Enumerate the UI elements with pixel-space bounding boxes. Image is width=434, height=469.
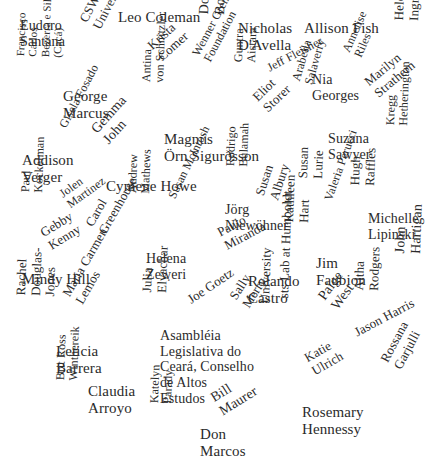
word-cloud-item: Guntra Aistara	[232, 27, 260, 63]
word-cloud-item: Julia Elyachar	[140, 245, 171, 293]
word-cloud-item: Rosemary Hennessy	[302, 404, 364, 438]
word-cloud-item: Gebby Kenny	[38, 209, 83, 252]
word-cloud-item: Joe Goetz	[185, 266, 236, 307]
word-cloud-item: Brit Ross Winthereik	[54, 326, 83, 381]
word-cloud-item: Antina von Schnitzler	[140, 11, 169, 83]
word-cloud-item: Katie Ulrich	[302, 336, 346, 378]
word-cloud-item: Claudia Arroyo	[88, 383, 135, 417]
word-cloud-item: Kregg Hetherington	[384, 61, 413, 126]
word-cloud-item: John Hartigan	[392, 203, 425, 254]
word-cloud: Eudoro SantanaCSWGS, Rice UniversityLeo …	[0, 0, 434, 469]
word-cloud-item: Helen Ingram	[392, 0, 422, 21]
word-cloud-item: Altha Rodgers	[352, 246, 383, 291]
word-cloud-item: Eliot Storer	[250, 72, 293, 115]
word-cloud-item: Don Marcos	[200, 426, 246, 460]
word-cloud-item: Rossana Garjulli	[378, 319, 424, 372]
word-cloud-item: University	[258, 247, 274, 303]
word-cloud-item: Francisco Carlos Bezerra e Silva (Cacá)	[14, 0, 66, 58]
word-cloud-item: Hugh Raffles	[348, 147, 378, 186]
word-cloud-item: Rodrigo Bulamah	[224, 122, 252, 167]
word-cloud-item: Nia Georges	[312, 72, 359, 103]
word-cloud-item: Rachel Douglas- Jones	[14, 247, 59, 297]
word-cloud-item: Katelyn Parady	[148, 364, 176, 404]
word-cloud-item: Paul Kockelman	[19, 136, 48, 193]
